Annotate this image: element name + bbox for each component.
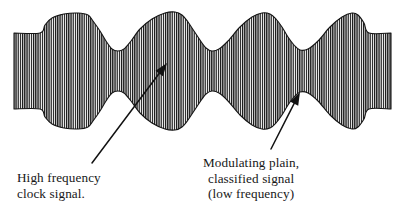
clock-signal-label-line-1: High frequency — [17, 170, 101, 186]
modulating-signal-label-line-1: Modulating plain, — [203, 155, 299, 171]
modulating-signal-label: Modulating plain, classified signal (low… — [203, 155, 299, 202]
modulating-signal-label-line-3: (low frequency) — [203, 186, 299, 202]
clock-signal-label: High frequency clock signal. — [17, 170, 101, 201]
signal-modulation-figure: High frequency clock signal. Modulating … — [0, 0, 405, 218]
modulating-signal-label-line-2: classified signal — [203, 171, 299, 187]
clock-signal-label-line-2: clock signal. — [17, 186, 101, 202]
